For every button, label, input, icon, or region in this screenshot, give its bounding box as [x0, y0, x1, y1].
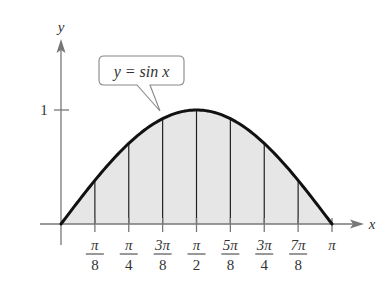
function-callout: y = sin x	[99, 56, 184, 111]
y-axis	[57, 39, 66, 245]
x-tick-numerator: π	[328, 237, 336, 253]
x-tick-denominator: 8	[91, 257, 99, 273]
x-tick-denominator: 4	[261, 257, 269, 273]
x-tick-numerator: π	[193, 237, 201, 253]
x-tick-denominator: 4	[125, 257, 133, 273]
x-tick-denominator: 2	[193, 257, 201, 273]
x-tick: 43π	[255, 218, 273, 273]
x-tick: 8π	[86, 218, 104, 273]
x-tick: 2π	[188, 218, 206, 273]
y-tick-1: 1	[40, 102, 69, 118]
x-tick-numerator: π	[91, 237, 99, 253]
sine-area-chart: 8π4π83π2π85π43π87ππ 1 y x y = sin x	[0, 0, 392, 298]
x-tick-numerator: 7π	[291, 237, 307, 253]
x-axis-label: x	[368, 216, 376, 232]
x-tick-denominator: 8	[159, 257, 167, 273]
x-tick-denominator: 8	[227, 257, 235, 273]
x-tick-numerator: 5π	[223, 237, 239, 253]
x-tick: 85π	[221, 218, 239, 273]
x-tick: 87π	[289, 218, 307, 273]
x-tick-numerator: 3π	[256, 237, 273, 253]
y-axis-label: y	[56, 19, 65, 35]
x-tick: 83π	[154, 218, 172, 273]
x-tick-denominator: 8	[294, 257, 302, 273]
x-tick: 4π	[120, 218, 138, 273]
x-tick-numerator: 3π	[154, 237, 171, 253]
x-ticks: 8π4π83π2π85π43π87ππ	[86, 218, 336, 273]
y-tick-label: 1	[40, 102, 48, 118]
x-tick-numerator: π	[125, 237, 133, 253]
callout-label: y = sin x	[112, 63, 170, 81]
